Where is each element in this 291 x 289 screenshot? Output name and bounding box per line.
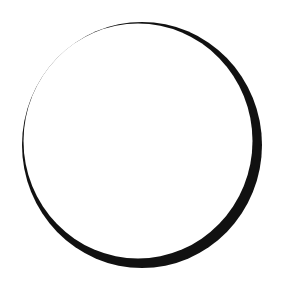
circle-inner-fill	[24, 24, 253, 259]
circle-drawing	[0, 0, 291, 289]
